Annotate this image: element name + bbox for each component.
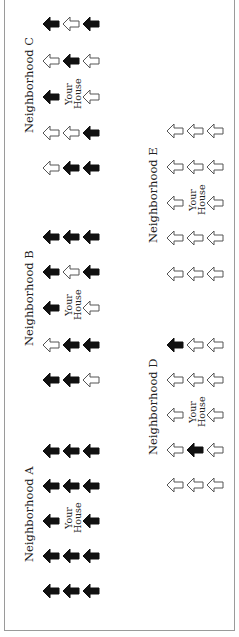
neighborhood-label: Neighborhood B xyxy=(24,250,36,346)
outline-left-arrow-icon xyxy=(62,15,80,33)
filled-left-arrow-icon xyxy=(82,442,100,460)
filled-left-arrow-icon xyxy=(82,336,100,354)
filled-left-arrow-icon xyxy=(82,15,100,33)
filled-left-arrow-icon xyxy=(42,371,60,389)
neighborhood-label: Neighborhood E xyxy=(148,147,160,243)
outline-left-arrow-icon xyxy=(186,229,204,247)
outline-left-arrow-icon xyxy=(82,371,100,389)
filled-left-arrow-icon xyxy=(62,547,80,565)
outline-left-arrow-icon xyxy=(166,441,184,459)
filled-left-arrow-icon xyxy=(42,477,60,495)
filled-left-arrow-icon xyxy=(42,442,60,460)
neighborhood-label: Neighborhood A xyxy=(24,466,36,562)
filled-left-arrow-icon xyxy=(82,263,100,281)
your-house-marker: YourHouse xyxy=(61,505,81,537)
neighborhood-label: Neighborhood D xyxy=(148,358,160,455)
outline-left-arrow-icon xyxy=(62,124,80,142)
filled-left-arrow-icon xyxy=(62,442,80,460)
outline-left-arrow-icon xyxy=(206,265,224,283)
outline-left-arrow-icon xyxy=(42,124,60,142)
filled-left-arrow-icon xyxy=(62,336,80,354)
filled-left-arrow-icon xyxy=(42,15,60,33)
outline-left-arrow-icon xyxy=(186,122,204,140)
outline-left-arrow-icon xyxy=(206,406,224,424)
your-house-marker: YourHouse xyxy=(61,292,81,324)
outline-left-arrow-icon xyxy=(62,263,80,281)
filled-left-arrow-icon xyxy=(82,582,100,600)
outline-left-arrow-icon xyxy=(166,194,184,212)
filled-left-arrow-icon xyxy=(42,228,60,246)
filled-left-arrow-icon xyxy=(82,512,100,530)
outline-left-arrow-icon xyxy=(82,52,100,70)
outline-left-arrow-icon xyxy=(186,158,204,176)
filled-left-arrow-icon xyxy=(82,477,100,495)
filled-left-arrow-icon xyxy=(62,228,80,246)
your-house-marker: YourHouse xyxy=(185,187,205,219)
filled-left-arrow-icon xyxy=(42,547,60,565)
outline-left-arrow-icon xyxy=(186,336,204,354)
outline-left-arrow-icon xyxy=(206,476,224,494)
outline-left-arrow-icon xyxy=(42,52,60,70)
outline-left-arrow-icon xyxy=(42,159,60,177)
diagram-frame xyxy=(4,0,235,631)
outline-left-arrow-icon xyxy=(206,441,224,459)
outline-left-arrow-icon xyxy=(166,476,184,494)
filled-left-arrow-icon xyxy=(82,547,100,565)
outline-left-arrow-icon xyxy=(82,299,100,317)
your-house-marker: YourHouse xyxy=(61,81,81,113)
outline-left-arrow-icon xyxy=(206,122,224,140)
outline-left-arrow-icon xyxy=(166,406,184,424)
outline-left-arrow-icon xyxy=(82,88,100,106)
outline-left-arrow-icon xyxy=(206,194,224,212)
filled-left-arrow-icon xyxy=(62,159,80,177)
outline-left-arrow-icon xyxy=(186,476,204,494)
filled-left-arrow-icon xyxy=(42,299,60,317)
outline-left-arrow-icon xyxy=(206,229,224,247)
outline-left-arrow-icon xyxy=(206,158,224,176)
filled-left-arrow-icon xyxy=(82,159,100,177)
filled-left-arrow-icon xyxy=(42,263,60,281)
filled-left-arrow-icon xyxy=(62,582,80,600)
outline-left-arrow-icon xyxy=(166,371,184,389)
filled-left-arrow-icon xyxy=(42,582,60,600)
outline-left-arrow-icon xyxy=(166,122,184,140)
outline-left-arrow-icon xyxy=(166,265,184,283)
outline-left-arrow-icon xyxy=(186,265,204,283)
neighborhood-label: Neighborhood C xyxy=(24,37,36,133)
outline-left-arrow-icon xyxy=(42,336,60,354)
filled-left-arrow-icon xyxy=(62,477,80,495)
filled-left-arrow-icon xyxy=(42,88,60,106)
your-house-marker: YourHouse xyxy=(185,399,205,431)
outline-left-arrow-icon xyxy=(186,371,204,389)
outline-left-arrow-icon xyxy=(166,229,184,247)
filled-left-arrow-icon xyxy=(62,52,80,70)
outline-left-arrow-icon xyxy=(166,158,184,176)
outline-left-arrow-icon xyxy=(206,371,224,389)
filled-left-arrow-icon xyxy=(82,124,100,142)
filled-left-arrow-icon xyxy=(82,228,100,246)
filled-left-arrow-icon xyxy=(42,512,60,530)
filled-left-arrow-icon xyxy=(166,336,184,354)
filled-left-arrow-icon xyxy=(186,441,204,459)
filled-left-arrow-icon xyxy=(62,371,80,389)
outline-left-arrow-icon xyxy=(206,336,224,354)
